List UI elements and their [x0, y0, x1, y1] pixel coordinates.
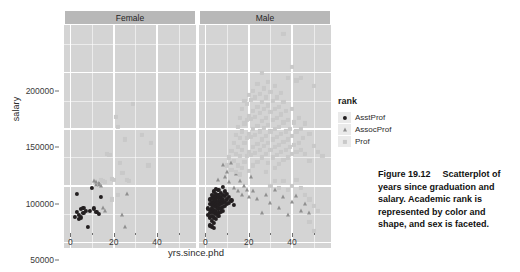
data-point	[320, 154, 324, 158]
x-tick-mark-minor	[179, 233, 180, 235]
data-point	[290, 107, 294, 111]
data-point	[242, 160, 246, 164]
legend-item: AssocProf	[338, 124, 424, 135]
data-point	[286, 213, 290, 217]
data-point	[277, 162, 281, 166]
data-point	[273, 179, 277, 183]
y-tick-mark	[55, 147, 59, 148]
data-point	[97, 212, 101, 216]
data-point	[238, 172, 242, 176]
data-point	[79, 215, 83, 219]
y-tick-label: 50000	[30, 255, 54, 265]
data-point	[112, 178, 116, 182]
legend-key-triangle-icon	[338, 124, 351, 135]
data-point	[107, 153, 111, 157]
data-point	[294, 178, 298, 182]
data-point	[116, 125, 120, 129]
figure-caption: Figure 19.12 Scatterplot of years since …	[378, 168, 514, 231]
y-tick-label: 100000	[26, 199, 54, 209]
data-point	[120, 171, 124, 175]
data-point	[212, 226, 216, 230]
gridline-minor-vertical	[227, 25, 228, 248]
facet-female: Female	[64, 10, 196, 248]
x-tick-label: 40	[152, 237, 161, 247]
data-point	[242, 141, 246, 145]
x-tick-mark-minor	[92, 233, 93, 235]
data-point	[110, 197, 114, 201]
data-point	[266, 161, 270, 165]
data-point	[242, 183, 246, 187]
data-point	[294, 194, 298, 198]
data-point	[303, 152, 307, 156]
panel-female	[64, 25, 196, 248]
data-point	[264, 134, 268, 138]
y-tick-mark	[55, 203, 59, 204]
data-point	[281, 100, 285, 104]
data-point	[260, 70, 264, 74]
data-point	[260, 100, 264, 104]
x-tick-mark-minor	[135, 233, 136, 235]
x-tick-mark	[292, 233, 293, 237]
data-point	[277, 186, 281, 190]
scatterplot: salary 50000100000150000200000 Female Ma…	[0, 0, 336, 272]
x-tick-label: 0	[68, 237, 73, 247]
legend-item: Prof	[338, 136, 424, 147]
data-point	[299, 208, 303, 212]
data-point	[120, 213, 124, 217]
data-point	[303, 121, 307, 125]
gridline-minor-horizontal	[64, 44, 196, 45]
data-point	[264, 95, 268, 99]
data-point	[221, 209, 225, 213]
data-point	[277, 104, 281, 108]
data-point	[264, 170, 268, 174]
data-point	[251, 109, 255, 113]
data-point	[307, 220, 311, 224]
data-point	[251, 189, 255, 193]
data-point	[290, 199, 294, 203]
data-point	[245, 188, 249, 192]
y-tick-label: 150000	[26, 142, 54, 152]
data-point	[247, 195, 251, 199]
data-point	[255, 160, 259, 164]
x-tick-label: 40	[287, 237, 296, 247]
data-point	[255, 104, 259, 108]
y-tick-mark	[55, 90, 59, 91]
data-point	[290, 184, 294, 188]
facet-strip-label-female: Female	[64, 10, 196, 25]
data-point	[249, 174, 253, 178]
gridline-minor-vertical	[135, 25, 136, 248]
data-point	[232, 203, 236, 207]
data-point	[238, 154, 242, 158]
facet-strip-label-male: Male	[199, 10, 331, 25]
x-tick-mark	[249, 233, 250, 237]
x-tick-label: 20	[244, 237, 253, 247]
data-point	[312, 84, 316, 88]
data-point	[86, 225, 90, 229]
figure-container: salary 50000100000150000200000 Female Ma…	[0, 0, 520, 272]
data-point	[301, 136, 305, 140]
data-point	[238, 179, 242, 183]
data-point	[277, 206, 281, 210]
gridline-minor-vertical	[92, 25, 93, 248]
data-point	[122, 137, 126, 141]
data-point	[264, 116, 268, 120]
data-point	[238, 116, 242, 120]
y-tick-mark	[55, 260, 59, 261]
gridline-major-horizontal	[64, 72, 196, 74]
data-point	[307, 132, 311, 136]
legend-title: rank	[338, 96, 424, 106]
data-point	[273, 84, 277, 88]
data-point	[281, 179, 285, 183]
data-point	[216, 178, 220, 182]
data-point	[290, 134, 294, 138]
data-point	[299, 186, 303, 190]
data-point	[283, 109, 287, 113]
data-point	[264, 152, 268, 156]
facet-male: Male	[199, 10, 331, 248]
gridline-minor-horizontal	[64, 101, 196, 102]
data-point	[266, 103, 270, 107]
gridline-major-vertical	[70, 25, 72, 248]
data-point	[227, 180, 231, 184]
legend: rank AsstProfAssocProfProf	[338, 96, 424, 148]
gridline-minor-vertical	[314, 25, 315, 248]
